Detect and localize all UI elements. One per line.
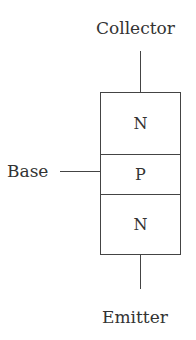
base-label: Base (7, 163, 48, 180)
layer-label-p: P (135, 165, 146, 184)
collector-label: Collector (96, 20, 175, 37)
layer-label-n-bottom: N (134, 215, 148, 234)
emitter-n-region: N (101, 195, 180, 254)
base-lead (60, 171, 100, 172)
base-p-region: P (101, 155, 180, 194)
semiconductor-stack: N P N (100, 92, 181, 255)
emitter-label: Emitter (102, 309, 168, 326)
emitter-lead (140, 255, 141, 289)
layer-label-n-top: N (134, 114, 148, 133)
collector-lead (140, 51, 141, 92)
collector-n-region: N (101, 93, 180, 154)
